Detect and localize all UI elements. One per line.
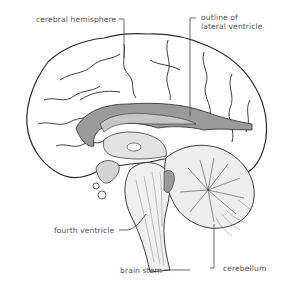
label-fourth-ventricle: fourth ventricle [54,226,114,235]
label-outline-of: outline of [201,13,238,22]
label-cerebral-hemisphere: cerebral hemisphere [36,15,116,24]
mammillary-body [93,183,99,189]
pituitary [98,191,106,199]
brain-diagram: cerebral hemisphere outline of lateral v… [0,0,288,284]
hypothalamus [96,161,119,184]
leader-cerebellum [210,224,214,268]
brain-stem-shape [125,163,170,273]
label-lateral-ventricle: lateral ventricle [201,22,263,31]
label-cerebellum: cerebellum [223,264,266,273]
interthalamic-adhesion [127,143,141,151]
label-brain-stem: brain stem [120,266,162,275]
brain-illustration [0,0,288,284]
